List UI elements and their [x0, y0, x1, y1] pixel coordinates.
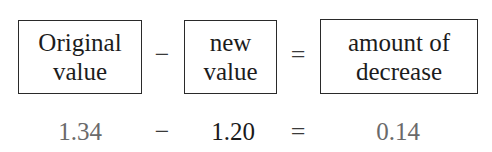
amount-of-decrease-number: 0.14: [368, 117, 428, 147]
amount-of-decrease-line1: amount of: [348, 28, 450, 57]
minus-operator-numeric: −: [147, 117, 177, 147]
new-value-box: new value: [184, 20, 277, 94]
equals-operator-numeric: =: [283, 117, 313, 147]
minus-operator: −: [147, 40, 177, 70]
original-value-number: 1.34: [50, 117, 110, 147]
equals-operator: =: [283, 40, 313, 70]
new-value-line2: value: [203, 57, 257, 86]
new-value-number: 1.20: [203, 117, 263, 147]
original-value-line1: Original: [38, 28, 121, 57]
new-value-line1: new: [210, 28, 252, 57]
amount-of-decrease-box: amount of decrease: [320, 19, 478, 94]
original-value-line2: value: [53, 57, 107, 86]
amount-of-decrease-line2: decrease: [356, 57, 442, 86]
original-value-box: Original value: [18, 20, 142, 94]
